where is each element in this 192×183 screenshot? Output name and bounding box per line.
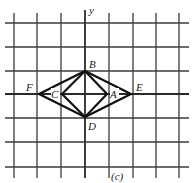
point-label-b: B — [89, 58, 96, 70]
point-label-f: F — [25, 81, 33, 93]
point-label-d: D — [87, 120, 96, 132]
point-label-e: E — [135, 81, 143, 93]
figure-caption: (c) — [111, 170, 124, 183]
coordinate-grid-diagram: y B F C A E D (c) — [0, 0, 192, 183]
grid-vertical-lines — [14, 13, 179, 178]
axis-label-y: y — [88, 4, 94, 16]
point-label-c: C — [51, 88, 59, 100]
grid-horizontal-lines — [5, 23, 189, 167]
point-label-a: A — [109, 88, 117, 100]
